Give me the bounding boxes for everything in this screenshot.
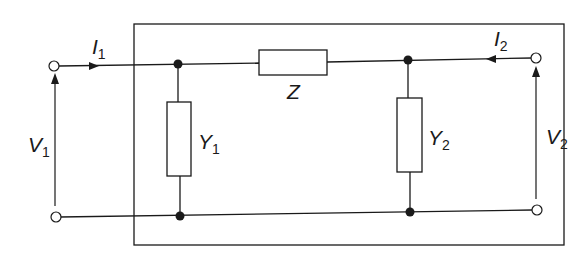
current-arrow-i2-icon: [486, 55, 496, 63]
label-v2: V2: [546, 125, 568, 152]
current-arrow-i1-icon: [89, 62, 99, 70]
terminal-bottom-left: [51, 212, 61, 222]
admittance-y2: [397, 98, 422, 172]
voltage-arrowhead-v1-icon: [51, 73, 59, 84]
admittance-y1: [167, 102, 191, 176]
terminal-top-left: [49, 61, 59, 71]
impedance-z: [259, 50, 327, 75]
top-wire-right: [327, 58, 532, 62]
label-y1: Y1: [198, 130, 220, 157]
circuit-diagram: I1 I2 V1 V2 Z Y1 Y2: [0, 0, 587, 267]
terminal-bottom-right: [532, 205, 542, 215]
label-v1: V1: [28, 133, 50, 160]
label-y2: Y2: [428, 126, 450, 153]
label-i1: I1: [92, 35, 106, 62]
junction-dot: [176, 212, 185, 221]
junction-dot: [174, 60, 183, 69]
label-i2: I2: [494, 27, 508, 54]
label-z: Z: [286, 80, 301, 103]
junction-dot: [404, 56, 413, 65]
junction-dot: [406, 208, 415, 217]
terminal-top-right: [531, 53, 541, 63]
bottom-wire: [60, 210, 532, 217]
voltage-arrowhead-v2-icon: [532, 66, 540, 77]
